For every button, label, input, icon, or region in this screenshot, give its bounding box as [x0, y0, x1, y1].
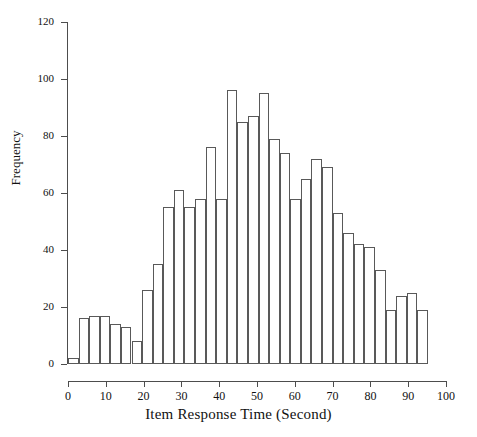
- x-axis-tick-label: 50: [237, 390, 277, 402]
- y-axis-tick: [61, 22, 67, 23]
- x-axis-tick-label: 20: [124, 390, 164, 402]
- histogram-bar: [386, 310, 397, 364]
- x-axis-tick: [219, 381, 220, 387]
- x-axis-title: Item Response Time (Second): [0, 406, 477, 423]
- y-axis-title: Frequency: [8, 88, 24, 228]
- histogram-bar: [174, 190, 185, 364]
- y-axis-tick: [61, 79, 67, 80]
- histogram-bar: [100, 316, 111, 364]
- histogram-bars: [68, 22, 446, 364]
- x-axis-tick: [181, 381, 182, 387]
- y-axis-tick: [61, 364, 67, 365]
- histogram-bar: [68, 358, 79, 364]
- histogram-bar: [343, 233, 354, 364]
- x-axis-tick-label: 40: [199, 390, 239, 402]
- histogram-bar: [407, 293, 418, 364]
- x-axis-tick-label: 100: [426, 390, 466, 402]
- histogram-bar: [364, 247, 375, 364]
- histogram-bar: [206, 147, 217, 364]
- histogram-bar: [79, 318, 90, 364]
- histogram-bar: [216, 199, 227, 364]
- histogram-bar: [354, 244, 365, 364]
- x-axis-tick: [295, 381, 296, 387]
- x-axis-tick: [446, 381, 447, 387]
- histogram-bar: [132, 341, 143, 364]
- x-axis-tick: [333, 381, 334, 387]
- histogram-bar: [375, 270, 386, 364]
- histogram-bar: [237, 122, 248, 364]
- histogram-bar: [322, 167, 333, 364]
- histogram-bar: [248, 116, 259, 364]
- y-axis-tick-label: 120: [14, 16, 54, 27]
- x-axis-tick-label: 0: [48, 390, 88, 402]
- histogram-bar: [280, 153, 291, 364]
- y-axis-tick: [61, 307, 67, 308]
- y-axis-tick-label: 40: [14, 244, 54, 255]
- histogram-bar: [269, 139, 280, 364]
- histogram-bar: [184, 207, 195, 364]
- histogram-plot: 020406080100120 0102030405060708090100 F…: [0, 0, 477, 437]
- histogram-bar: [333, 213, 344, 364]
- x-axis-tick-label: 60: [275, 390, 315, 402]
- histogram-bar: [259, 93, 270, 364]
- x-axis-tick: [257, 381, 258, 387]
- x-axis-tick: [408, 381, 409, 387]
- histogram-bar: [417, 310, 428, 364]
- x-axis-tick-label: 90: [388, 390, 428, 402]
- histogram-bar: [227, 90, 238, 364]
- histogram-bar: [163, 207, 174, 364]
- histogram-bar: [142, 290, 153, 364]
- y-axis-tick: [61, 136, 67, 137]
- y-axis-tick-label: 0: [14, 358, 54, 369]
- histogram-bar: [290, 199, 301, 364]
- x-axis-tick: [68, 381, 69, 387]
- x-axis-tick-label: 10: [86, 390, 126, 402]
- y-axis-tick-label: 20: [14, 301, 54, 312]
- y-axis-tick: [61, 250, 67, 251]
- x-axis-tick-label: 80: [350, 390, 390, 402]
- x-axis-tick: [106, 381, 107, 387]
- x-axis-tick-label: 70: [313, 390, 353, 402]
- histogram-bar: [110, 324, 121, 364]
- x-axis-tick: [144, 381, 145, 387]
- histogram-bar: [301, 179, 312, 364]
- histogram-bar: [396, 296, 407, 364]
- histogram-bar: [121, 327, 132, 364]
- y-axis-tick: [61, 193, 67, 194]
- histogram-bar: [89, 316, 100, 364]
- y-axis-tick-label: 100: [14, 73, 54, 84]
- x-axis-tick: [370, 381, 371, 387]
- histogram-bar: [195, 199, 206, 364]
- histogram-bar: [311, 159, 322, 364]
- x-axis-tick-label: 30: [161, 390, 201, 402]
- histogram-bar: [153, 264, 164, 364]
